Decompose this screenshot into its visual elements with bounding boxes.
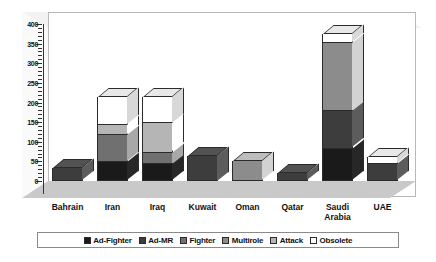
chart-root: 050100150200250300350400 BahrainIranIraq…: [0, 0, 436, 262]
legend-label: Ad-Fighter: [93, 236, 131, 245]
legend-swatch: [139, 237, 146, 244]
x-axis-label: Iraq: [135, 202, 180, 212]
bar-stack: [322, 34, 353, 181]
legend-item[interactable]: Ad-MR: [139, 236, 173, 245]
x-axis-label-line: Arabia: [315, 212, 360, 222]
bar-column[interactable]: [187, 156, 218, 182]
x-axis-label-line: Qatar: [270, 202, 315, 212]
x-axis-label: SaudiArabia: [315, 202, 360, 222]
legend-swatch: [270, 237, 277, 244]
bar-segment[interactable]: [187, 156, 218, 182]
bar-stack: [367, 157, 398, 181]
bar-segment[interactable]: [322, 42, 353, 111]
bar-segment[interactable]: [322, 110, 353, 147]
chart-legend: Ad-FighterAd-MRFighterMultiroleAttackObs…: [37, 232, 399, 248]
bar-column[interactable]: [322, 34, 353, 181]
x-axis-label: UAE: [360, 202, 405, 212]
bar-segment[interactable]: [97, 97, 128, 124]
x-axis-label: Kuwait: [180, 202, 225, 212]
bar-segment[interactable]: [142, 97, 173, 123]
bar-segment[interactable]: [322, 34, 353, 42]
bar-segment[interactable]: [97, 161, 128, 181]
legend-item[interactable]: Ad-Fighter: [84, 236, 132, 245]
bar-segment-side-face: [352, 33, 364, 110]
x-axis-label: Bahrain: [45, 202, 90, 212]
x-axis-label-line: Bahrain: [45, 202, 90, 212]
bar-stack: [277, 173, 308, 181]
bar-stack: [97, 97, 128, 181]
bar-segment[interactable]: [97, 134, 128, 161]
legend-item[interactable]: Multirole: [222, 236, 263, 245]
legend-swatch: [310, 237, 317, 244]
x-axis-label-line: UAE: [360, 202, 405, 212]
bar-column[interactable]: [277, 173, 308, 181]
x-axis-label-line: Kuwait: [180, 202, 225, 212]
bar-column[interactable]: [52, 168, 83, 181]
bar-series-container: [22, 12, 422, 200]
x-axis-label-line: Iran: [90, 202, 135, 212]
bar-segment[interactable]: [142, 163, 173, 181]
bar-stack: [187, 156, 218, 182]
bar-column[interactable]: [142, 97, 173, 181]
legend-label: Multirole: [232, 236, 264, 245]
bar-column[interactable]: [367, 157, 398, 181]
bar-segment[interactable]: [52, 168, 83, 181]
bar-segment[interactable]: [97, 124, 128, 134]
legend-item[interactable]: Fighter: [180, 236, 215, 245]
x-axis-label-line: Saudi: [315, 202, 360, 212]
plot-area: 050100150200250300350400: [22, 12, 420, 200]
bar-segment[interactable]: [142, 122, 173, 151]
legend-swatch: [84, 237, 91, 244]
bar-stack: [142, 97, 173, 181]
legend-swatch: [180, 237, 187, 244]
bar-segment[interactable]: [367, 163, 398, 181]
legend-label: Obsolete: [320, 236, 353, 245]
bar-segment[interactable]: [277, 173, 308, 181]
legend-item[interactable]: Attack: [270, 236, 303, 245]
bar-stack: [52, 168, 83, 181]
x-axis-label: Iran: [90, 202, 135, 212]
legend-item[interactable]: Obsolete: [310, 236, 352, 245]
bar-column[interactable]: [97, 97, 128, 181]
legend-swatch: [222, 237, 229, 244]
x-axis-label: Qatar: [270, 202, 315, 212]
bar-column[interactable]: [232, 161, 263, 181]
legend-label: Fighter: [190, 236, 216, 245]
x-axis-label: Oman: [225, 202, 270, 212]
bar-segment[interactable]: [142, 152, 173, 164]
legend-label: Attack: [280, 236, 303, 245]
bar-segment[interactable]: [322, 148, 353, 181]
x-axis-label-line: Oman: [225, 202, 270, 212]
x-axis-label-line: Iraq: [135, 202, 180, 212]
bar-stack: [232, 161, 263, 181]
x-axis-labels: BahrainIranIraqKuwaitOmanQatarSaudiArabi…: [22, 200, 422, 230]
legend-label: Ad-MR: [148, 236, 173, 245]
bar-segment[interactable]: [232, 161, 263, 181]
